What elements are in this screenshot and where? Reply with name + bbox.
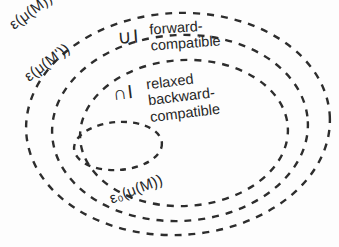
union-operator-symbol: ∪I [117, 26, 140, 48]
ellipse-inner [72, 119, 163, 173]
ellipse-middle [47, 28, 312, 227]
venn-diagram-figure: ε(μ(M)) ε(μ(M')) ε₀(μ(M)) ∪I forward-com… [0, 0, 339, 247]
intersection-operator-symbol: ∩I [112, 82, 135, 105]
region-caption-backward-compatible: relaxedbackward-compatible [145, 68, 221, 125]
region-caption-forward-compatible: forward-compatible [149, 17, 221, 55]
